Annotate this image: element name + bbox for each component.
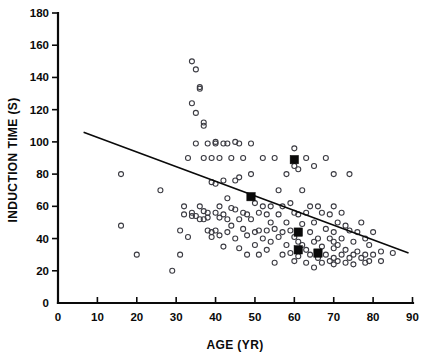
data-point <box>209 156 214 161</box>
data-point <box>276 234 281 239</box>
data-point <box>229 156 234 161</box>
data-point <box>319 210 324 215</box>
data-point <box>241 156 246 161</box>
induction-time-vs-age-scatter: 020406080100120140160180 010203040506070… <box>0 0 421 356</box>
data-point <box>331 230 336 235</box>
regression-line <box>84 132 409 253</box>
data-point <box>343 247 348 252</box>
data-point <box>292 146 297 151</box>
data-point <box>256 210 261 215</box>
data-point <box>260 156 265 161</box>
data-point <box>272 226 277 231</box>
x-tick-label-20: 20 <box>130 311 143 323</box>
data-point <box>193 67 198 72</box>
y-axis-title: INDUCTION TIME (S) <box>6 97 20 222</box>
data-point <box>296 167 301 172</box>
data-point <box>351 239 356 244</box>
data-point <box>221 212 226 217</box>
data-point <box>268 220 273 225</box>
y-tick-label-20: 20 <box>36 265 49 277</box>
data-point <box>264 212 269 217</box>
data-point <box>241 226 246 231</box>
x-tick-label-60: 60 <box>288 311 301 323</box>
data-point <box>221 244 226 249</box>
data-point <box>280 252 285 257</box>
group-mean-marker <box>290 155 298 163</box>
group-mean-marker <box>294 246 302 254</box>
data-point <box>197 204 202 209</box>
data-point <box>359 220 364 225</box>
data-point <box>119 223 124 228</box>
y-tick-label-40: 40 <box>36 233 49 245</box>
data-point <box>249 141 254 146</box>
data-point <box>272 260 277 265</box>
data-point <box>182 204 187 209</box>
data-point <box>185 156 190 161</box>
data-point <box>193 141 198 146</box>
data-point <box>296 254 301 259</box>
data-point <box>339 236 344 241</box>
y-tick-label-140: 140 <box>30 71 49 83</box>
data-point <box>225 196 230 201</box>
data-point <box>272 156 277 161</box>
x-tick-label-30: 30 <box>170 311 183 323</box>
data-points-open-circles <box>119 59 396 273</box>
data-point <box>355 249 360 254</box>
data-point <box>339 210 344 215</box>
data-point <box>268 239 273 244</box>
data-point <box>331 172 336 177</box>
data-point <box>331 204 336 209</box>
data-point <box>276 212 281 217</box>
data-point <box>280 230 285 235</box>
data-point <box>323 252 328 257</box>
data-point <box>252 243 257 248</box>
data-point <box>264 228 269 233</box>
y-tick-label-60: 60 <box>36 200 49 212</box>
data-point <box>245 252 250 257</box>
data-point <box>284 220 289 225</box>
x-tick-label-10: 10 <box>91 311 104 323</box>
data-point <box>343 223 348 228</box>
data-point <box>193 110 198 115</box>
x-tick-label-70: 70 <box>327 311 340 323</box>
x-tick-label-50: 50 <box>249 311 262 323</box>
data-point <box>237 175 242 180</box>
data-point <box>339 252 344 257</box>
data-point <box>363 252 368 257</box>
data-point <box>256 252 261 257</box>
x-tick-label-80: 80 <box>367 311 380 323</box>
data-point <box>312 220 317 225</box>
y-tick-label-120: 120 <box>30 104 49 116</box>
data-point <box>335 243 340 248</box>
x-tick-label-40: 40 <box>209 311 222 323</box>
data-point <box>276 188 281 193</box>
data-point <box>252 201 257 206</box>
x-axis-title: AGE (YR) <box>206 338 263 352</box>
x-tick-label-0: 0 <box>55 311 61 323</box>
data-point <box>158 188 163 193</box>
data-point <box>134 252 139 257</box>
data-point <box>343 260 348 265</box>
data-point <box>319 244 324 249</box>
y-tick-label-180: 180 <box>30 7 49 19</box>
data-point <box>201 123 206 128</box>
data-point <box>327 212 332 217</box>
data-point <box>304 156 309 161</box>
data-point <box>335 220 340 225</box>
data-point <box>217 204 222 209</box>
data-point <box>378 259 383 264</box>
data-point <box>335 259 340 264</box>
data-point <box>300 188 305 193</box>
y-axis-ticks: 020406080100120140160180 <box>30 7 58 309</box>
data-point <box>284 172 289 177</box>
data-point <box>260 236 265 241</box>
data-point <box>323 156 328 161</box>
x-axis-ticks: 0102030405060708090 <box>55 297 419 323</box>
data-point <box>189 59 194 64</box>
data-point <box>292 259 297 264</box>
data-point <box>237 217 242 222</box>
data-point <box>245 233 250 238</box>
data-point <box>323 226 328 231</box>
data-point <box>268 204 273 209</box>
group-mean-marker <box>314 249 322 257</box>
